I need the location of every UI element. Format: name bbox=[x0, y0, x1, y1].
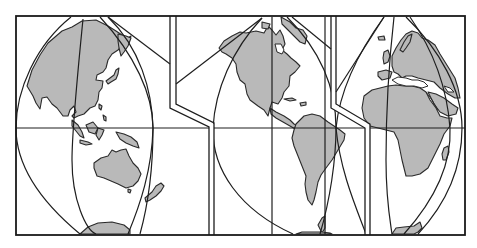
java-island bbox=[80, 140, 92, 145]
tasmania-island bbox=[128, 189, 131, 193]
iceland-island bbox=[378, 36, 385, 40]
north-america-landmass bbox=[219, 26, 300, 116]
british-isles bbox=[383, 50, 390, 64]
asia-australia-lobe bbox=[16, 17, 164, 234]
japan-island bbox=[106, 68, 119, 84]
iberia bbox=[378, 70, 392, 80]
greenland-landmass bbox=[281, 17, 307, 44]
kamchatka bbox=[118, 34, 131, 56]
antarctica-lobe2 bbox=[296, 232, 332, 234]
new-guinea-island bbox=[116, 132, 139, 148]
hispaniola-island bbox=[300, 102, 306, 106]
europe-africa-lobe bbox=[336, 17, 462, 234]
antarctica-lobe3 bbox=[392, 222, 422, 234]
interrupted-world-map bbox=[0, 0, 477, 248]
cuba-island bbox=[284, 98, 296, 101]
australia-landmass bbox=[94, 149, 141, 188]
antarctica-lobe1 bbox=[80, 222, 130, 234]
arctic-islands bbox=[262, 22, 270, 29]
americas-lobe bbox=[213, 17, 345, 234]
philippines-islands bbox=[103, 115, 106, 121]
lobe3-upper-diagonal bbox=[336, 17, 384, 92]
taiwan-island bbox=[99, 104, 102, 110]
sulawesi-island bbox=[96, 128, 104, 140]
